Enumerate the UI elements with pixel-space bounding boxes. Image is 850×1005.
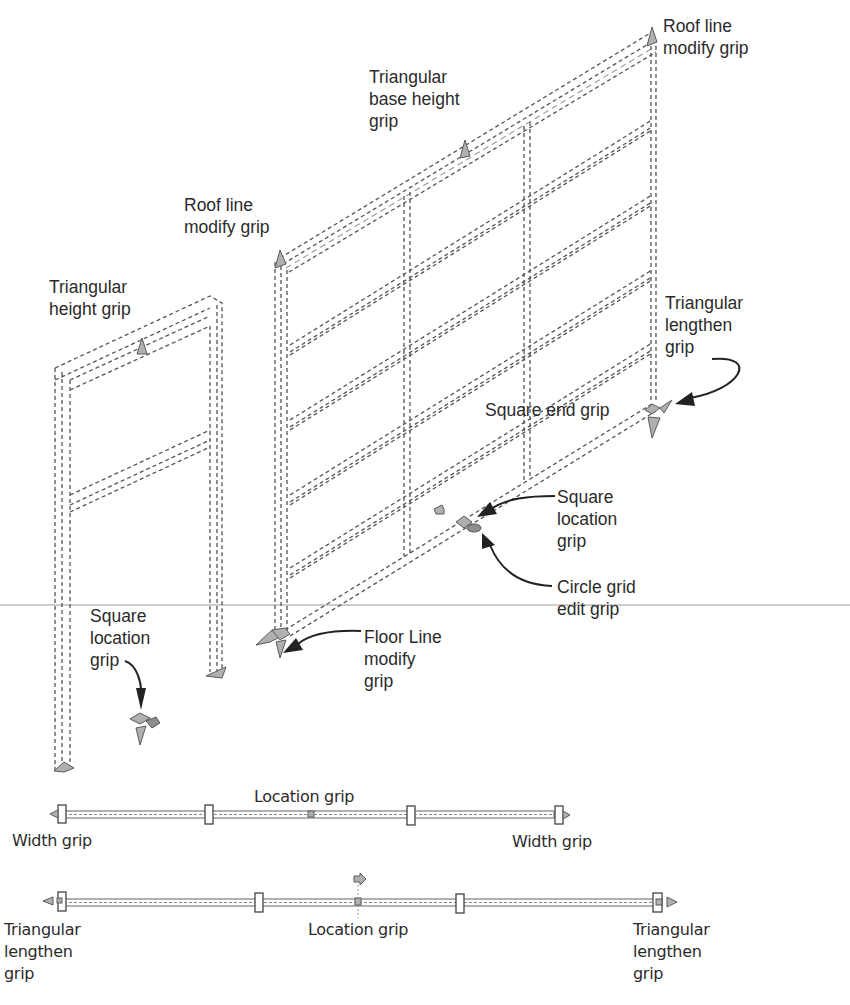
location-grip-top-icon[interactable] — [308, 811, 314, 817]
triangular-lengthen-grip-right-icon[interactable] — [667, 897, 677, 907]
triangular-lengthen-grip-icon — [660, 400, 672, 413]
label-triangular-lengthen-bottom-left: Triangular lengthen grip — [4, 919, 81, 985]
door-end-grip-icon[interactable] — [206, 667, 226, 678]
width-grip-left-icon[interactable] — [58, 805, 66, 823]
grip-diagram — [0, 0, 850, 1005]
label-floor-line-modify: Floor Line modify grip — [364, 626, 442, 692]
label-square-location-left: Square location grip — [90, 605, 150, 671]
location-direction-arrow-icon[interactable] — [354, 873, 366, 885]
label-square-end: Square end grip — [485, 399, 610, 421]
label-roof-line-left: Roof line modify grip — [184, 194, 270, 238]
label-circle-grid-edit: Circle grid edit grip — [557, 576, 636, 620]
roof-line-modify-grip-left-icon[interactable] — [275, 250, 286, 268]
label-roof-line-top-right: Roof line modify grip — [663, 15, 749, 59]
label-triangular-lengthen-right: Triangular lengthen grip — [665, 292, 743, 358]
triangular-base-height-grip-icon[interactable] — [460, 140, 470, 158]
label-width-grip-left: Width grip — [12, 830, 92, 852]
width-grip-beam — [50, 805, 570, 825]
lengthen-grip-beam — [43, 873, 677, 918]
square-location-grip-left-group[interactable] — [130, 713, 160, 745]
roof-line-modify-grip-right-icon[interactable] — [647, 27, 657, 46]
triangular-height-grip-icon[interactable] — [137, 338, 147, 354]
door-bottom-grip-icon[interactable] — [54, 762, 74, 772]
label-location-grip-bottom: Location grip — [308, 919, 408, 941]
label-triangular-lengthen-bottom-right: Triangular lengthen grip — [633, 919, 710, 985]
direction-arrow-icon — [434, 505, 444, 514]
circle-grid-edit-grip-icon — [467, 524, 481, 532]
floor-line-modify-grip-group[interactable] — [256, 628, 290, 658]
location-grip-bottom-icon[interactable] — [355, 898, 361, 905]
label-location-grip-top: Location grip — [254, 786, 354, 808]
label-triangular-base-height: Triangular base height grip — [369, 66, 460, 132]
label-triangular-height: Triangular height grip — [49, 276, 131, 320]
label-width-grip-right: Width grip — [512, 831, 592, 853]
triangular-lengthen-grip-left-icon[interactable] — [43, 897, 53, 905]
width-grip-right-icon[interactable] — [555, 806, 563, 824]
square-location-grip-center-group[interactable] — [434, 505, 481, 532]
label-square-location-center: Square location grip — [557, 486, 617, 552]
